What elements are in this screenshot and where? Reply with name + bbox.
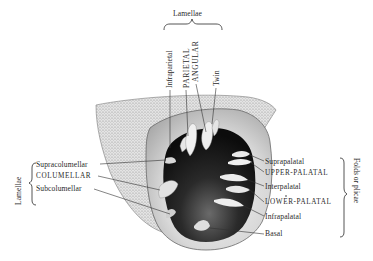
label-supracolumellar: Supracolumellar	[36, 160, 88, 169]
label-basal: Basal	[265, 229, 282, 238]
shell-aperture-diagram: Lamellae Infraparietal PARIETAL ANGULAR …	[0, 0, 373, 261]
diagram-artwork	[0, 0, 373, 261]
label-infrapalatal: Infrapalatal	[265, 212, 301, 221]
top-group-label: Lamellae	[173, 9, 202, 18]
label-suprapalatal: Suprapalatal	[265, 157, 304, 166]
label-angular: ANGULAR	[191, 41, 200, 82]
right-group-label: Folds or plicae	[352, 158, 361, 203]
right-brace	[340, 158, 347, 237]
label-parietal: PARIETAL	[182, 48, 191, 88]
label-lower-palatal: LOWER-PALATAL	[265, 198, 331, 207]
top-brace	[164, 19, 222, 30]
left-brace	[29, 163, 36, 205]
label-twin: Twin	[212, 71, 221, 87]
label-upper-palatal: UPPER-PALATAL	[265, 169, 328, 178]
label-infraparietal: Infraparietal	[165, 50, 174, 88]
label-subcolumellar: Subcolumellar	[36, 184, 82, 193]
label-columellar: COLUMELLAR	[36, 172, 91, 181]
left-group-label: Lamellae	[14, 177, 23, 205]
label-interpalatal: Interpalatal	[265, 182, 301, 191]
